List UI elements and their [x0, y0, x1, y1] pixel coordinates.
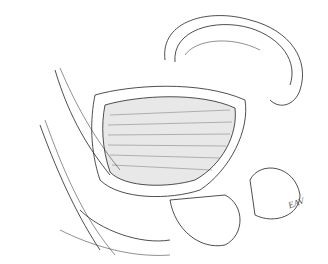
anatomical-illustration: EAV — [0, 0, 328, 264]
line-drawing — [0, 0, 328, 264]
